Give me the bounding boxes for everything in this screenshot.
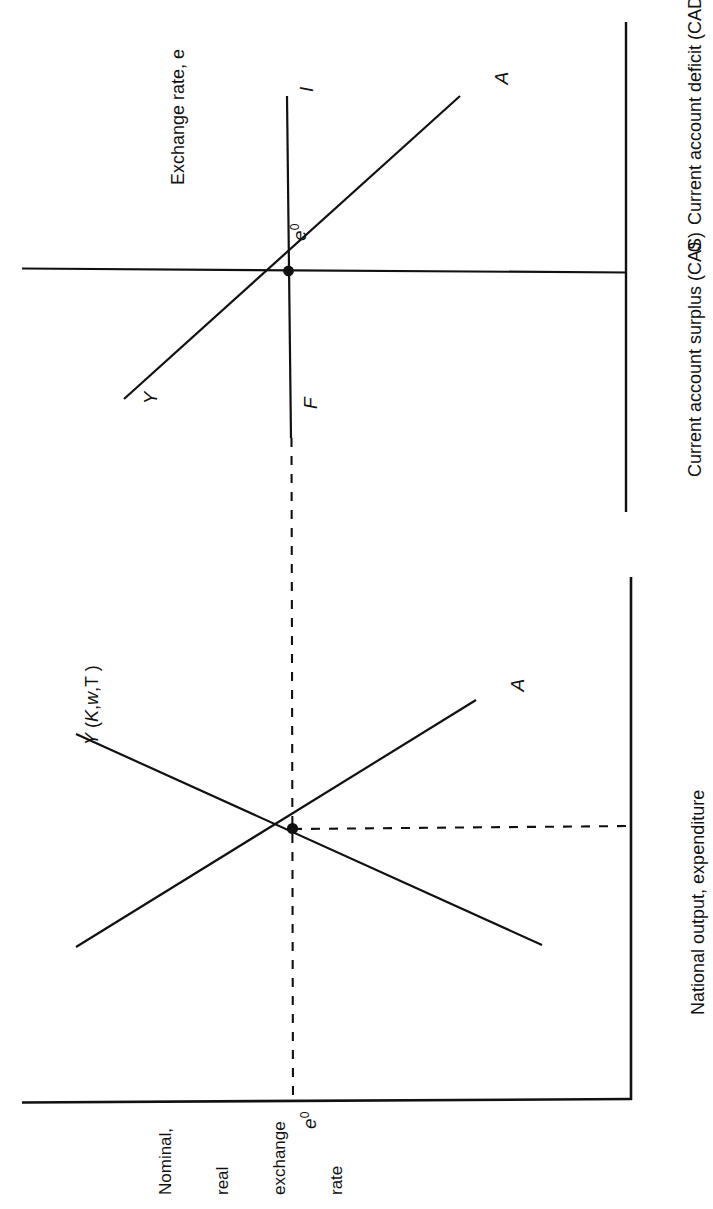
top-panel-equilibrium-dot xyxy=(283,266,294,277)
e0-sup-bottom: 0 xyxy=(298,1112,312,1119)
nominal-real-exchange-rate-label: Nominal, real exchange rate xyxy=(118,1121,384,1195)
top-panel-Y-label: Y xyxy=(119,392,183,425)
A2-text: A xyxy=(507,679,528,692)
bottom-panel-e0-label: e0 xyxy=(278,1112,342,1150)
top-panel-e0-label: e0 xyxy=(268,224,332,262)
panel-connector-dashed xyxy=(292,438,294,1100)
yfn-w: w xyxy=(82,692,102,705)
bottom-panel-equilibrium-dot xyxy=(287,823,298,834)
cad-axis-label: Current account deficit (CAD) xyxy=(665,0,713,245)
yfn-comma: , xyxy=(82,705,102,710)
national-output-text: National output, expenditure xyxy=(688,790,708,1015)
yfn-Y: Y xyxy=(82,733,102,745)
bottom-panel-equilibrium-dashed xyxy=(293,826,631,829)
e0-base-bottom: e xyxy=(300,1118,321,1129)
exchange-rate-axis-label: Exchange rate, e xyxy=(148,49,208,205)
top-panel-A-label: A xyxy=(470,72,534,105)
Y-text: Y xyxy=(140,392,161,405)
e0-base-top: e xyxy=(290,230,311,241)
nominal-line-2: real xyxy=(213,1121,232,1195)
bottom-panel-absorption-curve xyxy=(76,700,476,947)
A-text: A xyxy=(491,72,512,85)
bottom-panel-value-axis xyxy=(22,1099,632,1103)
top-panel-F-label: F xyxy=(279,397,343,430)
e0-sup-top: 0 xyxy=(288,224,302,231)
top-panel-value-axis xyxy=(22,269,627,273)
yfn-open: ( xyxy=(82,722,102,733)
I-text: I xyxy=(296,87,317,92)
bottom-panel-A-label: A xyxy=(486,679,550,712)
top-panel-I-label: I xyxy=(275,87,339,113)
exchange-rate-axis-text: Exchange rate, e xyxy=(168,49,188,185)
F-text: F xyxy=(300,397,321,409)
bottom-panel-output-curve xyxy=(76,734,542,945)
nominal-line-1: Nominal, xyxy=(156,1121,175,1195)
yfn-K: K xyxy=(82,710,102,722)
bottom-panel-output-curve-label: Y (K,w,T ) xyxy=(62,665,122,765)
national-output-axis-label: National output, expenditure xyxy=(668,790,713,1035)
yfn-rest: ,T ) xyxy=(82,665,102,692)
zero-axis-label: 0 xyxy=(665,242,713,272)
cad-text: Current account deficit (CAD) xyxy=(685,0,705,225)
